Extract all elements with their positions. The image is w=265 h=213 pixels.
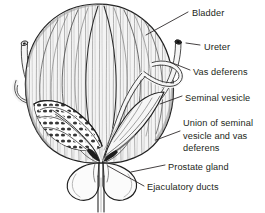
anatomy-illustration bbox=[0, 0, 265, 213]
label-vas-deferens: Vas deferens bbox=[193, 66, 248, 79]
anatomical-figure: Bladder Ureter Vas deferens Seminal vesi… bbox=[0, 0, 265, 213]
label-ureter: Ureter bbox=[204, 41, 230, 54]
label-union-of-seminal-vesicle-and-vas-deferens: Union of seminal vesicle and vas deferen… bbox=[183, 117, 253, 155]
label-seminal-vesicle: Seminal vesicle bbox=[185, 92, 250, 105]
label-bladder: Bladder bbox=[192, 7, 224, 20]
label-prostate-gland: Prostate gland bbox=[168, 161, 229, 174]
label-ejaculatory-ducts: Ejaculatory ducts bbox=[147, 181, 219, 194]
